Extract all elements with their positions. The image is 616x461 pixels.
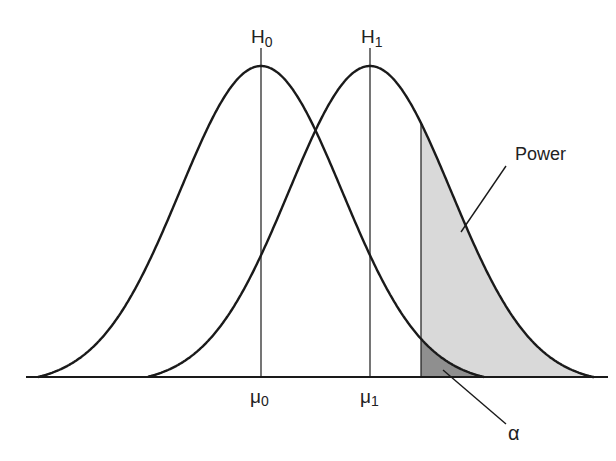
alpha-label: α <box>508 422 520 444</box>
power-region <box>421 123 594 377</box>
h0-label: H0 <box>251 26 273 50</box>
h1-label: H1 <box>361 26 383 50</box>
power-leader-line <box>461 166 506 232</box>
mu1-label: μ1 <box>360 386 379 409</box>
power-label: Power <box>515 144 566 164</box>
mu0-label: μ0 <box>250 386 269 409</box>
power-diagram: H0 H1 μ0 μ1 Power α <box>0 0 616 461</box>
alpha-leader-line <box>443 370 506 424</box>
